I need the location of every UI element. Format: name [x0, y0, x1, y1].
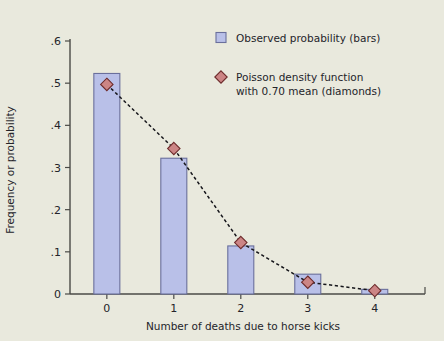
bar [94, 73, 120, 294]
y-tick-label: .1 [51, 246, 62, 259]
legend-label-poisson: with 0.70 mean (diamonds) [236, 85, 381, 97]
y-tick-label: .3 [51, 162, 62, 175]
bar [161, 158, 187, 294]
y-tick-label: .6 [51, 35, 62, 48]
y-tick-label: .4 [51, 119, 62, 132]
y-tick-label: .5 [51, 77, 62, 90]
legend-label-poisson: Poisson density function [236, 71, 363, 83]
y-tick-label: 0 [54, 288, 61, 301]
legend-square-icon [216, 33, 226, 43]
y-tick-label: .2 [51, 204, 62, 217]
x-tick-label: 4 [371, 302, 378, 315]
x-tick-label: 1 [170, 302, 177, 315]
chart-canvas: 0.1.2.3.4.5.6 01234 Number of deaths due… [0, 0, 444, 341]
x-tick-label: 3 [304, 302, 311, 315]
legend-label-observed: Observed probability (bars) [236, 32, 380, 44]
poisson-horse-kicks-chart: 0.1.2.3.4.5.6 01234 Number of deaths due… [0, 0, 444, 341]
x-tick-label: 2 [237, 302, 244, 315]
x-tick-label: 0 [103, 302, 110, 315]
y-axis-title: Frequency or probability [4, 106, 16, 234]
bar [228, 246, 254, 294]
x-axis-title: Number of deaths due to horse kicks [146, 320, 340, 332]
